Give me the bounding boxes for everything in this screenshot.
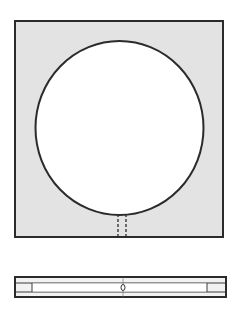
side-inner-band xyxy=(32,284,207,292)
side-view xyxy=(15,277,226,297)
side-center-mark xyxy=(121,285,125,291)
top-view xyxy=(15,21,223,237)
washer-technical-drawing xyxy=(0,0,237,313)
circular-hole xyxy=(36,41,204,215)
